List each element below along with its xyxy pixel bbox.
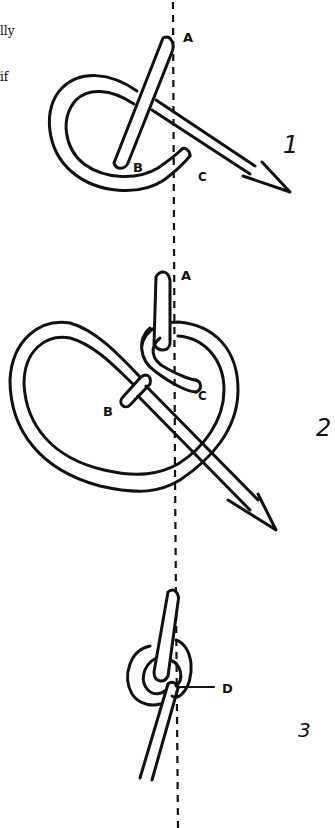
step-2-figure: [10, 272, 276, 530]
step-3-figure: [128, 590, 214, 780]
step-number-2: 2: [316, 414, 331, 442]
step-number-1: 1: [283, 131, 298, 159]
knot-diagram-page: lly if A B C 1: [0, 0, 335, 828]
step-number-3: 3: [298, 718, 311, 742]
step-1-figure: [49, 37, 290, 192]
label-c-step1: C: [198, 170, 207, 184]
label-d-step3: D: [222, 681, 233, 696]
label-b-step1: B: [133, 160, 143, 175]
label-c-step2: C: [198, 389, 207, 403]
label-a-step2: A: [181, 268, 191, 283]
label-a-step1: A: [183, 30, 193, 45]
knot-illustration: A B C 1 A B C 2: [0, 0, 335, 828]
label-b-step2: B: [103, 404, 113, 419]
